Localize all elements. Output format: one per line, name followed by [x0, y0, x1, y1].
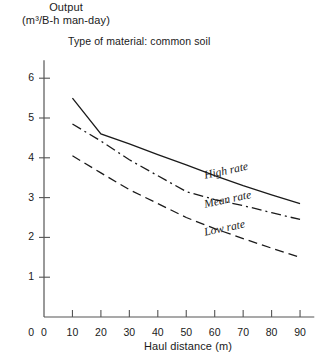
x-tick-label: 20 [89, 326, 113, 338]
series-line-high-rate [72, 98, 300, 203]
x-tick-label: 60 [203, 326, 227, 338]
x-tick-label: 10 [60, 326, 84, 338]
series-line-low-rate [72, 156, 300, 257]
y-tick-label: 1 [18, 270, 34, 282]
x-tick-label: 30 [117, 326, 141, 338]
series-line-mean-rate [72, 124, 300, 220]
chart-axes [39, 60, 314, 317]
x-tick-label: 0 [32, 326, 56, 338]
x-tick-label: 80 [260, 326, 284, 338]
x-tick-label: 50 [174, 326, 198, 338]
y-tick-label: 6 [18, 71, 34, 83]
y-tick-label: 2 [18, 230, 34, 242]
y-tick-label: 3 [18, 191, 34, 203]
y-tick-label: 4 [18, 151, 34, 163]
y-tick-label: 5 [18, 111, 34, 123]
chart-plot-area [0, 0, 332, 359]
x-tick-label: 70 [231, 326, 255, 338]
x-tick-label: 40 [146, 326, 170, 338]
chart-page: Output (m³/B-h man-day) Type of material… [0, 0, 332, 359]
x-tick-label: 90 [288, 326, 312, 338]
chart-series [72, 98, 300, 257]
x-axis-label: Haul distance (m) [44, 340, 332, 352]
